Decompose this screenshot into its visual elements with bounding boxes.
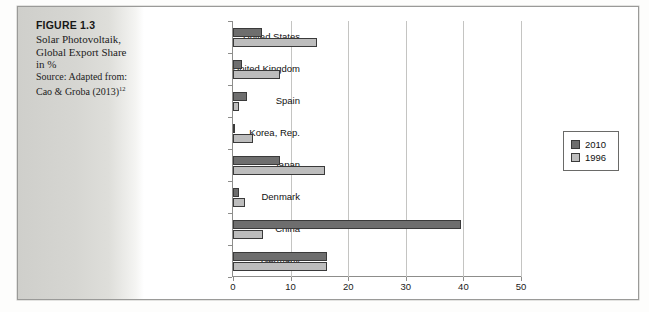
- bar-2010-spain: [233, 92, 247, 101]
- bar-1996-germany: [233, 262, 327, 271]
- y-axis-tick: [228, 21, 232, 22]
- figure-source-citation: Cao & Groba (2013): [36, 86, 119, 97]
- chart-plot-area: 01020304050United StatesUnited KingdomSp…: [232, 21, 522, 277]
- legend-label-1996: 1996: [585, 152, 606, 163]
- figure-title-line-1: Solar Photovoltaik,: [36, 33, 140, 46]
- y-axis-tick: [228, 85, 232, 86]
- bar-1996-japan: [233, 166, 325, 175]
- chart-canvas: 01020304050United StatesUnited KingdomSp…: [232, 21, 522, 277]
- x-axis-tick-label: 50: [516, 281, 527, 292]
- y-axis-category-label: Korea, Rep.: [249, 127, 300, 138]
- bar-2010-korea-rep: [233, 124, 235, 133]
- legend-item-2010[interactable]: 2010: [571, 139, 606, 150]
- x-gridline: [406, 21, 407, 277]
- figure-number-label: FIGURE 1.3: [36, 19, 140, 31]
- legend-swatch-2010-icon: [571, 140, 580, 149]
- x-axis-line: [232, 276, 522, 277]
- chart-legend: 2010 1996: [563, 131, 619, 171]
- y-axis-tick: [228, 149, 232, 150]
- bar-1996-denmark: [233, 198, 245, 207]
- x-gridline: [463, 21, 464, 277]
- bar-1996-china: [233, 230, 263, 239]
- figure-title-line-2: Global Export Share: [36, 46, 140, 59]
- x-axis-tick-label: 0: [230, 281, 235, 292]
- legend-label-2010: 2010: [585, 139, 606, 150]
- y-axis-tick: [228, 117, 232, 118]
- bar-1996-spain: [233, 102, 239, 111]
- y-axis-category-label: Denmark: [261, 191, 300, 202]
- x-gridline: [291, 21, 292, 277]
- x-axis-tick-label: 20: [343, 281, 354, 292]
- legend-swatch-1996-icon: [571, 153, 580, 162]
- x-gridline: [521, 21, 522, 277]
- y-axis-tick: [228, 277, 232, 278]
- figure-frame: FIGURE 1.3 Solar Photovoltaik, Global Ex…: [17, 6, 639, 300]
- bar-2010-germany: [233, 252, 327, 261]
- figure-title-line-3: in %: [36, 58, 140, 71]
- y-axis-tick: [228, 53, 232, 54]
- figure-source-line-2: Cao & Groba (2013)12: [36, 83, 140, 99]
- bar-2010-united-kingdom: [233, 60, 242, 69]
- y-axis-tick: [228, 245, 232, 246]
- bar-1996-united-states: [233, 38, 317, 47]
- x-axis-tick-label: 30: [401, 281, 412, 292]
- bar-2010-china: [233, 220, 461, 229]
- y-axis-tick: [228, 181, 232, 182]
- bar-2010-denmark: [233, 188, 239, 197]
- x-axis-tick-label: 40: [458, 281, 469, 292]
- figure-page: FIGURE 1.3 Solar Photovoltaik, Global Ex…: [0, 0, 649, 312]
- bar-1996-united-kingdom: [233, 70, 280, 79]
- x-axis-tick-label: 10: [285, 281, 296, 292]
- x-gridline: [348, 21, 349, 277]
- figure-source-line-1: Source: Adapted from:: [36, 71, 140, 83]
- figure-caption-panel: FIGURE 1.3 Solar Photovoltaik, Global Ex…: [18, 7, 144, 299]
- bar-2010-japan: [233, 156, 280, 165]
- figure-caption-text: FIGURE 1.3 Solar Photovoltaik, Global Ex…: [36, 19, 140, 99]
- bar-1996-korea-rep: [233, 134, 253, 143]
- y-axis-category-label: Spain: [276, 95, 300, 106]
- y-axis-tick: [228, 213, 232, 214]
- bar-2010-united-states: [233, 28, 262, 37]
- figure-source-footnote: 12: [119, 85, 126, 92]
- legend-item-1996[interactable]: 1996: [571, 152, 606, 163]
